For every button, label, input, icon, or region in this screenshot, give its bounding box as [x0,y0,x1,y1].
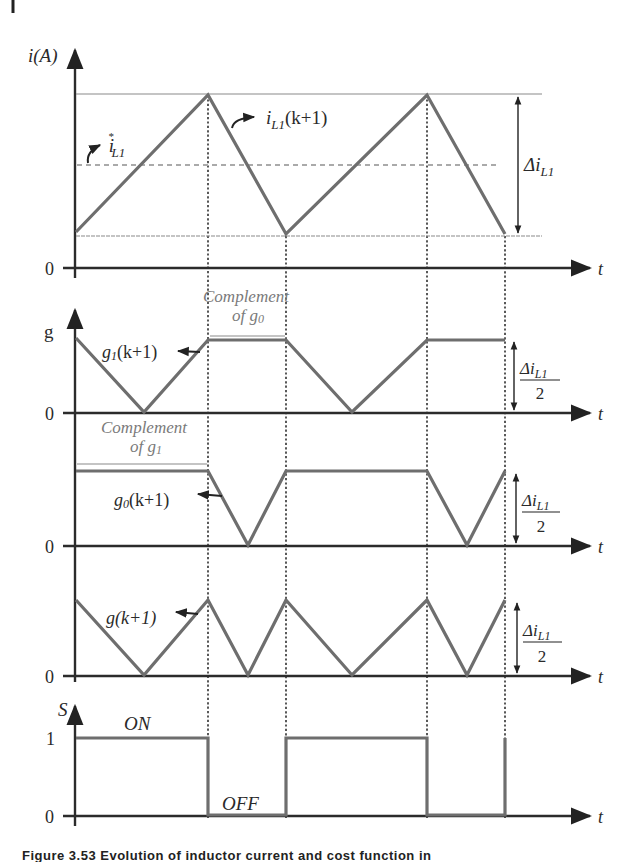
ripple-denominator: 2 [536,384,545,403]
panel-g: 0 t g(k+1) ΔiL1 2 [45,550,604,687]
on-label: ON [124,713,152,734]
ripple-numerator: ΔiL1 [519,359,547,381]
ripple-denominator: 2 [537,517,546,536]
g1-pointer-arrow [178,351,200,352]
off-label: OFF [222,793,259,814]
zero-label: 0 [45,537,54,557]
panel-g1: g 0 t Complement of g0 g1(k+1) ΔiL1 2 [44,287,604,424]
g-pointer-arrow [176,612,198,614]
ripple-numerator: ΔiL1 [522,621,550,643]
one-label: 1 [46,729,55,749]
g0-pointer-arrow [198,494,222,496]
complement-label-line1: Complement [203,287,290,306]
zero-label: 0 [45,667,54,687]
complement-label-line1: Complement [101,418,188,437]
y-axis-label: i(A) [28,45,58,67]
zero-label: 0 [45,259,54,279]
x-axis-label: t [598,259,604,279]
g0-label: g0(k+1) [114,490,169,511]
x-axis-label: t [598,667,604,687]
vertical-guides [208,95,505,818]
g-label: g(k+1) [106,608,156,629]
x-axis-label: t [598,807,604,827]
zero-label: 0 [45,404,54,424]
figure-caption: Figure 3.53 Evolution of inductor curren… [22,848,622,862]
g1-label: g1(k+1) [102,342,157,363]
y-axis-label: S [58,699,68,720]
ripple-label: ΔiL1 [523,154,554,179]
x-axis-label: t [598,404,604,424]
ripple-denominator: 2 [538,647,547,666]
wave-pointer-arrow [232,117,254,128]
ripple-numerator: ΔiL1 [521,491,549,513]
zero-label: 0 [45,807,54,827]
waveform-figure: i(A) 0 t i*L1 iL1(k+1) ΔiL1 g 0 t Comple… [0,0,634,862]
complement-label-line2: of g0 [232,306,264,326]
panel-current: i(A) 0 t i*L1 iL1(k+1) ΔiL1 [28,45,604,279]
panel-switch: S 1 0 t ON OFF [45,699,604,827]
x-axis-label: t [598,537,604,557]
complement-label-line2: of g1 [130,437,162,457]
y-axis-label: g [44,321,54,342]
ref-label: i*L1 [108,130,125,160]
panel-g0: 0 t Complement of g1 g0(k+1) ΔiL1 2 [45,418,604,557]
ref-pointer-arrow [88,145,100,163]
switch-state-wave [76,738,505,815]
wave-label: iL1(k+1) [266,107,327,132]
